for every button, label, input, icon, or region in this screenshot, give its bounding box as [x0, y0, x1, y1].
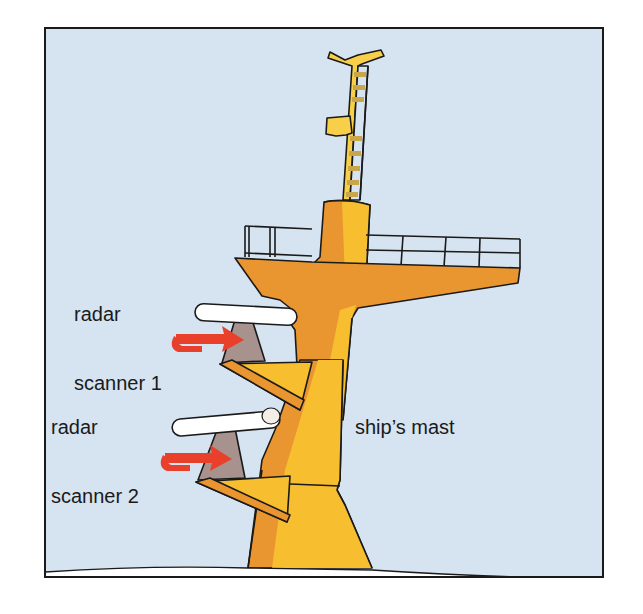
label-radar-scanner-2: radar scanner 2 — [51, 370, 139, 554]
label-mast-text: ship’s mast — [355, 416, 455, 439]
label-scanner-2-line-2: scanner 2 — [51, 485, 139, 508]
label-ships-mast: ship’s mast — [355, 370, 455, 485]
label-scanner-1-line-1: radar — [74, 303, 162, 326]
figure-frame: radar scanner 1 radar scanner 2 ship’s m… — [0, 0, 643, 614]
label-scanner-2-line-1: radar — [51, 416, 139, 439]
